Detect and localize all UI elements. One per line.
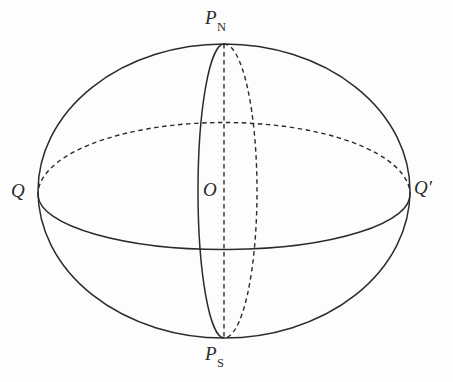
meridian-back-arc (224, 44, 257, 338)
label-left-point: Q (11, 181, 25, 200)
label-center: O (203, 180, 217, 199)
sphere-figure-canvas (0, 0, 453, 382)
label-north-pole: PN (205, 8, 226, 31)
label-right-point-prime: ′ (428, 177, 432, 198)
label-left-point-base: Q (11, 180, 25, 201)
label-north-pole-subscript: N (217, 20, 226, 34)
label-center-base: O (203, 179, 217, 200)
label-south-pole-subscript: S (217, 356, 224, 370)
label-north-pole-base: P (205, 7, 217, 28)
sphere-diagram: PN PS Q Q′ O (0, 0, 453, 382)
label-right-point: Q′ (414, 178, 432, 197)
label-south-pole-base: P (205, 343, 217, 364)
label-south-pole: PS (205, 344, 224, 367)
label-right-point-base: Q (414, 177, 428, 198)
